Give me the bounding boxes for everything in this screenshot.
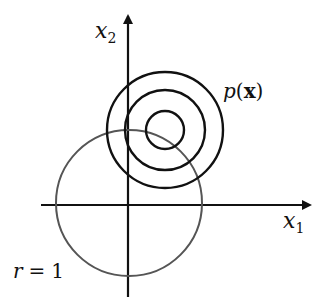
radius-label: r=1	[13, 259, 64, 283]
x2-axis-label: x2	[95, 18, 116, 46]
density-contour-inner	[146, 111, 184, 149]
x1-axis-label: x1	[283, 208, 304, 236]
diagram-canvas: x2 x1 p(x) r=1	[0, 0, 327, 308]
density-label: p(x)	[223, 79, 263, 103]
